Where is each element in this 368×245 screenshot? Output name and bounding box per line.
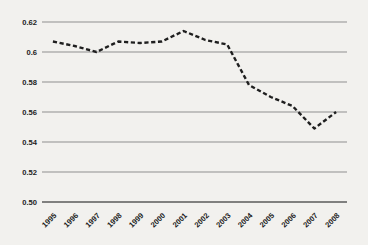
x-tick-label: 1998 (105, 211, 123, 229)
chart-canvas: 0.620.60.580.560.540.520.501995199619971… (0, 0, 368, 245)
y-tick-label: 0.62 (22, 18, 37, 27)
x-tick-label: 2004 (236, 211, 255, 230)
line-chart: 0.620.60.580.560.540.520.501995199619971… (0, 0, 368, 245)
x-tick-label: 2000 (149, 211, 167, 229)
x-tick-label: 2007 (301, 211, 319, 229)
x-tick-label: 2006 (280, 211, 298, 229)
y-tick-label: 0.50 (22, 198, 37, 207)
x-tick-label: 1996 (62, 211, 80, 229)
y-tick-label: 0.6 (26, 48, 37, 57)
x-tick-label: 2005 (258, 211, 277, 230)
y-tick-label: 0.52 (22, 168, 37, 177)
x-tick-label: 2003 (214, 211, 232, 229)
x-tick-label: 2001 (171, 211, 190, 230)
y-tick-label: 0.54 (22, 138, 38, 147)
x-tick-label: 1997 (84, 211, 102, 229)
x-tick-label: 2002 (192, 211, 210, 229)
x-tick-label: 2008 (323, 211, 341, 229)
data-line-series (53, 31, 336, 129)
x-tick-label: 1999 (127, 211, 145, 229)
x-tick-label: 1995 (40, 211, 59, 230)
y-tick-label: 0.56 (22, 108, 37, 117)
y-tick-label: 0.58 (22, 78, 37, 87)
